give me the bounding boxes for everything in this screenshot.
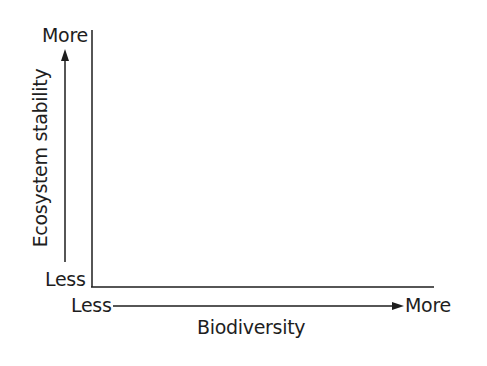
x-arrow-head-icon xyxy=(392,302,404,310)
y-axis-high-label: More xyxy=(42,26,88,45)
x-axis-title: Biodiversity xyxy=(197,318,305,337)
x-axis-low-label: Less xyxy=(71,296,112,315)
y-axis-low-label: Less xyxy=(45,270,86,289)
x-axis-high-label: More xyxy=(405,296,451,315)
y-arrow-head-icon xyxy=(61,49,69,61)
y-axis-title: Ecosystem stability xyxy=(29,69,51,248)
